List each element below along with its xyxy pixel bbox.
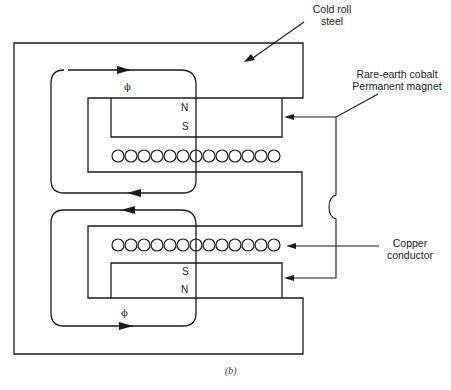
magnetic-circuit-diagram [0, 0, 451, 390]
bottom-magnet-north-label: N [181, 284, 188, 295]
top-flux-arrow-left [127, 189, 141, 197]
bottom-flux-arrow-left [121, 206, 135, 214]
cold-roll-steel-label-line2: steel [302, 15, 362, 27]
steel-leader-arrow [244, 54, 255, 62]
top-magnet-arrow [284, 114, 294, 120]
permanent-magnet-label-line1: Rare-earth cobalt [349, 68, 445, 80]
top-magnet-south-label: S [182, 121, 189, 132]
bottom-magnet-arrow [284, 275, 294, 281]
top-magnet-north-label: N [181, 102, 188, 113]
magnet-leader-line [290, 94, 378, 278]
cold-roll-steel-label: Cold roll steel [302, 3, 362, 27]
bottom-flux-symbol: ϕ [121, 307, 128, 318]
copper-leader-arrow [286, 243, 296, 249]
steel-leader-line [250, 22, 304, 60]
copper-conductor-label-line2: conductor [382, 249, 438, 261]
copper-conductor-label-line1: Copper [382, 237, 438, 249]
copper-conductor-label: Copper conductor [382, 237, 438, 261]
figure-caption: (b) [225, 365, 237, 376]
permanent-magnet-label-line2: Permanent magnet [349, 80, 445, 92]
bottom-flux-arrow-right [119, 322, 133, 330]
steel-core-outline [14, 43, 303, 354]
bottom-magnet-south-label: S [182, 266, 189, 277]
top-flux-arrow-right [117, 66, 131, 74]
top-flux-symbol: ϕ [124, 81, 131, 92]
permanent-magnet-label: Rare-earth cobalt Permanent magnet [349, 68, 445, 92]
cold-roll-steel-label-line1: Cold roll [302, 3, 362, 15]
